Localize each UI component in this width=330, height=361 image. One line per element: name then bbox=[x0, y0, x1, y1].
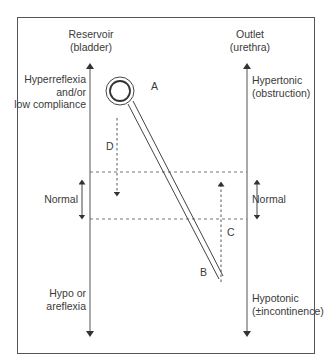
reservoir-upper-line2: and/or bbox=[0, 86, 86, 99]
pivot-circle-icon bbox=[106, 77, 134, 105]
outlet-title-line2: (urethra) bbox=[205, 41, 295, 54]
outlet-upper-label: Hypertonic (obstruction) bbox=[252, 74, 327, 99]
reservoir-upper-line3: low compliance bbox=[0, 98, 86, 111]
reservoir-upper-label: Hyperreflexia and/or low compliance bbox=[0, 73, 86, 111]
reservoir-lower-label: Hypo or areflexia bbox=[20, 287, 86, 312]
reservoir-lower-line2: areflexia bbox=[20, 300, 86, 313]
marker-c: C bbox=[227, 226, 235, 239]
reservoir-title-line1: Reservoir bbox=[46, 28, 136, 41]
outlet-upper-line2: (obstruction) bbox=[252, 87, 327, 100]
reservoir-upper-line1: Hyperreflexia bbox=[0, 73, 86, 86]
outlet-title: Outlet (urethra) bbox=[205, 28, 295, 53]
marker-a: A bbox=[151, 80, 158, 93]
lever-bar bbox=[128, 101, 223, 279]
outlet-upper-line1: Hypertonic bbox=[252, 74, 327, 87]
reservoir-title-line2: (bladder) bbox=[46, 41, 136, 54]
outlet-lower-line1: Hypotonic bbox=[252, 292, 328, 305]
outlet-lower-line2: (±incontinence) bbox=[252, 305, 328, 318]
outlet-lower-label: Hypotonic (±incontinence) bbox=[252, 292, 328, 317]
reservoir-normal-label: Normal bbox=[20, 193, 78, 206]
outlet-normal-label: Normal bbox=[252, 193, 312, 206]
reservoir-title: Reservoir (bladder) bbox=[46, 28, 136, 53]
marker-b: B bbox=[200, 266, 207, 279]
marker-d: D bbox=[106, 140, 114, 153]
outlet-title-line1: Outlet bbox=[205, 28, 295, 41]
reservoir-lower-line1: Hypo or bbox=[20, 287, 86, 300]
